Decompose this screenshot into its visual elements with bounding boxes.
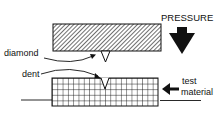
- pressure-arrow-icon: [169, 27, 195, 54]
- hardness-test-diagram: PRESSURE diamond dent test material: [0, 0, 223, 116]
- dent-pointer-arrow: [41, 69, 101, 78]
- material-arrow-icon: [162, 83, 179, 95]
- diamond-pointer-arrow: [44, 54, 96, 62]
- test-material-label-line1: test: [182, 76, 197, 86]
- indenter-block: [53, 24, 161, 51]
- test-material-label-line2: material: [181, 87, 213, 97]
- diamond-tip: [101, 51, 110, 62]
- pressure-label: PRESSURE: [161, 12, 213, 23]
- diamond-label: diamond: [4, 48, 39, 58]
- dent-label: dent: [22, 69, 40, 79]
